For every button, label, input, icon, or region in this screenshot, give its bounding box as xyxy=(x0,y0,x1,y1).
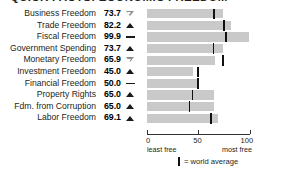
value-bar xyxy=(147,79,198,88)
axis-tick xyxy=(198,130,199,134)
chart-title-strip: QUICK FACTS: ECONOMIC FREEDOM xyxy=(0,0,282,5)
chart-row: Trade Freedom82.2 xyxy=(0,20,282,32)
bar-track xyxy=(147,102,250,111)
value-bar xyxy=(147,32,249,41)
chart-row: Fiscal Freedom99.9 xyxy=(0,31,282,43)
trend-glyph xyxy=(126,83,135,85)
trend-glyph xyxy=(126,11,134,16)
row-label-monetary-freedom: Monetary Freedom xyxy=(0,54,96,66)
trend-glyph xyxy=(126,36,135,38)
row-label-financial-freedom: Financial Freedom xyxy=(0,78,96,90)
bar-track xyxy=(147,67,250,76)
value-bar xyxy=(147,9,223,18)
row-value: 99.9 xyxy=(98,31,121,43)
trend-glyph xyxy=(126,104,134,109)
value-bar xyxy=(147,102,214,111)
value-bar xyxy=(147,56,215,65)
bar-track xyxy=(147,9,250,18)
world-average-mark xyxy=(223,20,225,31)
legend-label: = world average xyxy=(184,156,238,167)
trend-up-icon xyxy=(125,43,136,55)
trend-up-icon xyxy=(125,101,136,113)
trend-flat-icon xyxy=(125,78,136,90)
page-title: QUICK FACTS: ECONOMIC FREEDOM xyxy=(10,0,228,3)
chart-row: Financial Freedom50.0 xyxy=(0,78,282,90)
axis-label-most-free: most free xyxy=(222,145,252,154)
trend-up-icon xyxy=(125,112,136,124)
x-axis-line xyxy=(147,134,250,135)
economic-freedom-chart: Business Freedom73.7Trade Freedom82.2Fis… xyxy=(0,6,282,171)
trend-up-icon xyxy=(125,89,136,101)
bar-track xyxy=(147,114,250,123)
bar-track xyxy=(147,44,250,53)
world-average-mark xyxy=(222,55,224,66)
value-bar xyxy=(147,114,218,123)
row-label-labor-freedom: Labor Freedom xyxy=(0,112,96,124)
trend-down-icon xyxy=(125,54,136,66)
axis-tick xyxy=(250,130,251,134)
trend-glyph xyxy=(126,23,134,28)
world-average-mark xyxy=(197,67,199,78)
world-average-mark xyxy=(189,101,191,112)
trend-glyph xyxy=(126,92,134,97)
axis-tick-label: 100 xyxy=(241,136,254,145)
world-average-mark xyxy=(192,90,194,101)
row-value: 65.0 xyxy=(98,89,121,101)
row-value: 65.0 xyxy=(98,101,121,113)
chart-row: Fdm. from Corruption65.0 xyxy=(0,101,282,113)
chart-row: Monetary Freedom65.9 xyxy=(0,54,282,66)
chart-row: Business Freedom73.7 xyxy=(0,8,282,20)
row-value: 45.0 xyxy=(98,66,121,78)
world-average-mark xyxy=(210,113,212,124)
world-average-mark xyxy=(213,9,215,20)
axis-label-least-free: least free xyxy=(147,145,177,154)
row-label-fiscal-freedom: Fiscal Freedom xyxy=(0,31,96,43)
value-bar xyxy=(147,21,231,30)
trend-up-icon xyxy=(125,20,136,32)
row-value: 65.9 xyxy=(98,54,121,66)
value-bar xyxy=(147,67,193,76)
trend-flat-icon xyxy=(125,31,136,43)
row-label-business-freedom: Business Freedom xyxy=(0,8,96,20)
trend-glyph xyxy=(126,116,134,121)
world-average-mark xyxy=(225,32,227,43)
trend-down-icon xyxy=(125,8,136,20)
chart-row: Property Rights65.0 xyxy=(0,89,282,101)
chart-row: Labor Freedom69.1 xyxy=(0,112,282,124)
chart-row: Investment Freedom45.0 xyxy=(0,66,282,78)
world-average-mark xyxy=(197,78,199,89)
trend-glyph xyxy=(126,69,134,74)
world-average-legend-mark xyxy=(178,157,180,167)
world-average-mark xyxy=(213,43,215,54)
trend-glyph xyxy=(126,58,134,63)
row-value: 73.7 xyxy=(98,43,121,55)
bar-track xyxy=(147,32,250,41)
bar-track xyxy=(147,90,250,99)
row-label-fdm-from-corruption: Fdm. from Corruption xyxy=(0,101,96,113)
bar-track xyxy=(147,21,250,30)
trend-glyph xyxy=(126,46,134,51)
value-bar xyxy=(147,90,214,99)
bar-track xyxy=(147,79,250,88)
row-label-investment-freedom: Investment Freedom xyxy=(0,66,96,78)
value-bar xyxy=(147,44,223,53)
row-label-property-rights: Property Rights xyxy=(0,89,96,101)
row-label-government-spending: Government Spending xyxy=(0,43,96,55)
bar-track xyxy=(147,56,250,65)
row-value: 69.1 xyxy=(98,112,121,124)
row-value: 50.0 xyxy=(98,78,121,90)
axis-tick-label: 0 xyxy=(146,136,150,145)
row-value: 82.2 xyxy=(98,20,121,32)
axis-tick-label: 50 xyxy=(193,136,201,145)
row-label-trade-freedom: Trade Freedom xyxy=(0,20,96,32)
row-value: 73.7 xyxy=(98,8,121,20)
chart-row: Government Spending73.7 xyxy=(0,43,282,55)
trend-up-icon xyxy=(125,66,136,78)
axis-tick xyxy=(147,130,148,134)
